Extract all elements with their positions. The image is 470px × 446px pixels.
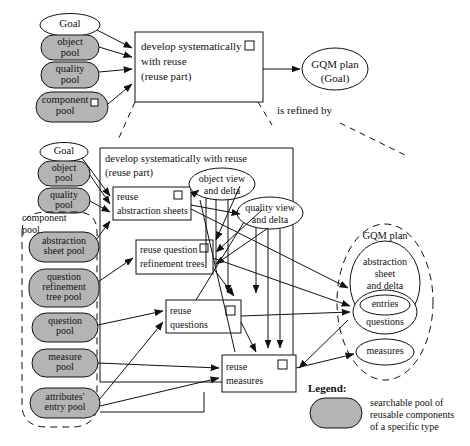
top-component-pool-marker (91, 99, 98, 106)
arrow-objectpool-to-process (99, 47, 132, 57)
top-process-box (135, 32, 263, 102)
pool-question (32, 313, 98, 342)
refine-guide-right (258, 102, 272, 125)
detail-goal-ellipse (40, 143, 88, 162)
top-quality-pool-shape (41, 62, 99, 88)
legend-pool-shape (310, 398, 362, 428)
detail-object-pool-shape (38, 161, 90, 186)
top-object-pool-shape (41, 35, 99, 60)
top-component-pool-shape (36, 92, 108, 122)
diagram-canvas: Goal object pool quality pool component … (0, 0, 470, 446)
marker-reuse-questions (226, 306, 235, 315)
pool-question-refinement-tree (29, 269, 99, 307)
legend-description: searchable pool of reusable components o… (370, 397, 470, 432)
arrow-goal-to-process (97, 30, 132, 48)
gqm-measures-ellipse (356, 339, 414, 365)
marker-reuse-abstraction-sheets (174, 191, 182, 199)
pool-measure (32, 349, 98, 377)
arrow-measures-to-gqmmeasures (296, 354, 354, 368)
view-object-ellipse (189, 168, 255, 200)
gqm-entries-ellipse (360, 295, 410, 315)
refine-guide-right2 (340, 123, 405, 155)
arrow-gqmentries-to-measures (299, 320, 348, 368)
pool-attributes-entry (30, 388, 100, 418)
arrow-qualitypool-to-process (99, 69, 132, 72)
marker-reuse-question-refinement-trees (200, 244, 208, 252)
arrow-componentpool-to-process (108, 84, 132, 104)
diagram-vector-layer (0, 0, 470, 446)
top-process-marker (245, 41, 254, 50)
marker-reuse-measures (278, 360, 287, 369)
refine-guide-left (118, 102, 135, 140)
pool-abstraction-sheet (29, 232, 99, 262)
top-gqm-plan-ellipse (302, 48, 368, 90)
legend-title: Legend: (308, 382, 347, 394)
top-goal-ellipse (40, 14, 100, 37)
detail-quality-pool-shape (38, 188, 90, 213)
